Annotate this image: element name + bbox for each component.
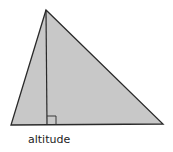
- triangle: [11, 10, 163, 125]
- altitude-label: altitude: [28, 133, 70, 146]
- triangle-diagram: altitude: [0, 0, 173, 152]
